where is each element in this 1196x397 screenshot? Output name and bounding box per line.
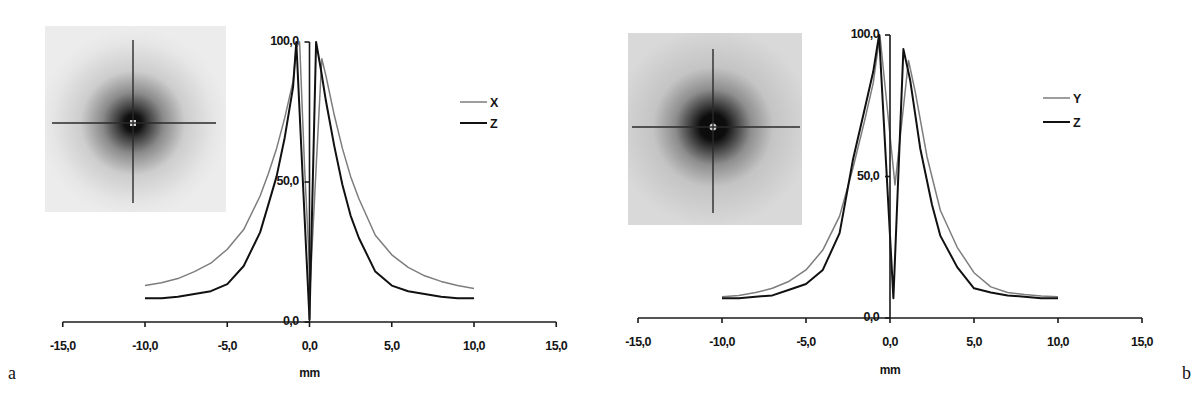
x-tick-label: 0,0 <box>302 339 318 353</box>
x-tick-label: -10,0 <box>709 335 735 349</box>
psf-image-a <box>45 26 226 212</box>
x-tick-label: 5,0 <box>384 339 400 353</box>
x-tick-label: -15,0 <box>50 339 76 353</box>
x-axis-title: mm <box>299 366 320 380</box>
inset-image-panel-b <box>628 33 802 225</box>
y-tick-label: 100,0 <box>270 34 299 48</box>
legend-label-z: Z <box>490 117 498 131</box>
legend-label-x: X <box>490 96 499 110</box>
legend-label-z: Z <box>1073 116 1081 130</box>
x-tick-label: 15,0 <box>1131 335 1154 349</box>
inset-image-panel-a <box>45 26 226 212</box>
x-tick-label: 5,0 <box>966 335 982 349</box>
x-tick-label: 10,0 <box>463 339 486 353</box>
y-tick-label: 100,0 <box>851 27 880 41</box>
x-tick-label: -5,0 <box>796 335 816 349</box>
x-tick-label: 0,0 <box>882 335 898 349</box>
x-tick-label: -5,0 <box>218 339 238 353</box>
y-tick-label: 50,0 <box>857 169 880 183</box>
y-tick-label: 0,0 <box>283 314 299 328</box>
legend: XZ <box>460 96 499 131</box>
x-tick-label: 15,0 <box>545 339 568 353</box>
y-tick-label: 50,0 <box>277 174 300 188</box>
x-tick-label: -15,0 <box>625 335 651 349</box>
panel-label-a: a <box>8 363 16 383</box>
x-tick-label: 10,0 <box>1047 335 1070 349</box>
panel-label-b: b <box>1182 363 1191 383</box>
y-tick-label: 0,0 <box>863 310 879 324</box>
figure: -15,0-10,0-5,00,05,010,015,00,050,0100,0… <box>0 0 1196 397</box>
x-tick-label: -10,0 <box>132 339 158 353</box>
legend: YZ <box>1043 92 1082 130</box>
x-axis-title: mm <box>880 363 901 377</box>
legend-label-y: Y <box>1073 92 1082 106</box>
